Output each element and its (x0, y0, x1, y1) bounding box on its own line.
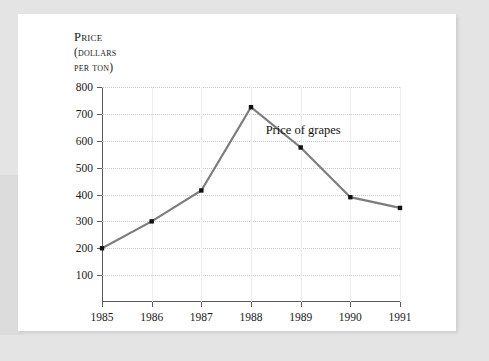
x-tick-label: 1987 (190, 311, 213, 323)
y-axis-title-line-2: (dollars (74, 45, 116, 60)
data-point-marker (100, 246, 104, 250)
x-tick-label: 1990 (339, 311, 362, 323)
x-tick-mark (400, 302, 401, 307)
x-tick-label: 1985 (91, 311, 114, 323)
data-point-marker (298, 145, 302, 149)
y-tick-label: 100 (76, 269, 93, 281)
data-point-marker (249, 105, 253, 109)
y-axis-title-line-1: Price (74, 30, 116, 45)
y-tick-label: 400 (76, 189, 93, 201)
x-tick-mark (350, 302, 351, 307)
y-tick-label: 500 (76, 162, 93, 174)
data-point-marker (348, 195, 352, 199)
series-markers (100, 105, 402, 250)
y-axis-title: Price (dollars per ton) (74, 30, 116, 75)
y-tick-label: 800 (76, 81, 93, 93)
x-tick-mark (102, 302, 103, 307)
data-point-marker (149, 219, 153, 223)
y-tick-label: 700 (76, 108, 93, 120)
x-tick-label: 1986 (140, 311, 163, 323)
x-tick-mark (251, 302, 252, 307)
data-point-marker (398, 206, 402, 210)
y-axis-title-line-3: per ton) (74, 60, 116, 75)
x-tick-label: 1988 (240, 311, 263, 323)
data-series-grapes (102, 87, 400, 302)
plot-area: 100200300400500600700800 198519861987198… (102, 87, 400, 302)
x-tick-mark (152, 302, 153, 307)
x-tick-mark (301, 302, 302, 307)
data-point-marker (199, 188, 203, 192)
series-line (102, 107, 400, 248)
x-tick-mark (201, 302, 202, 307)
x-tick-label: 1991 (389, 311, 412, 323)
line-chart-figure: Price (dollars per ton) 1002003004005006… (18, 14, 456, 331)
gridline-vertical (400, 87, 401, 302)
y-tick-label: 200 (76, 242, 93, 254)
x-tick-label: 1989 (289, 311, 312, 323)
y-tick-label: 600 (76, 135, 93, 147)
series-annotation-label: Price of grapes (266, 123, 341, 138)
y-tick-label: 300 (76, 215, 93, 227)
